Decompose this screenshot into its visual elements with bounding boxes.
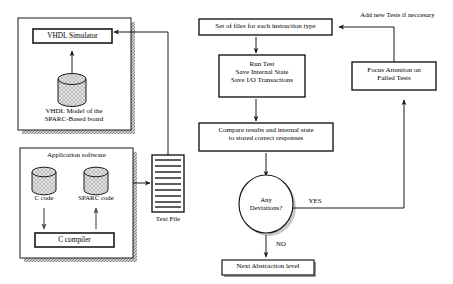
- diagram-canvas: VHDL Simulator VHDL Model of the SPARC-B…: [0, 0, 453, 284]
- diagram-vector-layer: [0, 0, 453, 284]
- next-abstraction-box-shape: [222, 260, 316, 277]
- vhdl-simulator-box-shape: [33, 29, 112, 43]
- c-code-cylinder-icon: [32, 167, 56, 195]
- vhdl-model-cylinder-icon: [58, 74, 86, 107]
- sparc-code-cylinder-icon: [84, 167, 108, 195]
- any-deviations-ellipse-shape: [239, 175, 296, 236]
- c-compiler-box-shape: [35, 233, 114, 247]
- focus-attention-box-shape: [352, 62, 436, 90]
- arrow-focus-to-files: [339, 27, 394, 62]
- arrow-yes-to-focus: [293, 100, 404, 208]
- compare-results-box-shape: [199, 123, 333, 151]
- text-file-icon-shape: [152, 155, 184, 212]
- run-test-box-shape: [219, 55, 305, 97]
- set-of-files-box-shape: [199, 19, 332, 35]
